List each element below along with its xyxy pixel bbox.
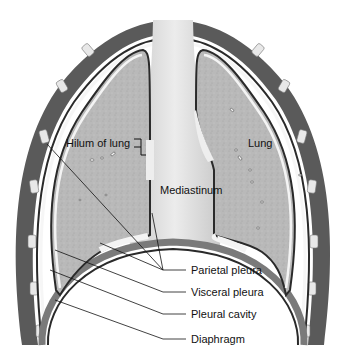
pleural-cavity-label: Pleural cavity bbox=[191, 308, 256, 320]
visceral-pleura-label: Visceral pleura bbox=[191, 286, 264, 298]
mediastinum-label: Mediastinum bbox=[160, 184, 222, 196]
diaphragm-label: Diaphragm bbox=[191, 333, 245, 345]
left-hilum bbox=[146, 140, 154, 180]
lung-label: Lung bbox=[248, 137, 272, 149]
thorax-illustration bbox=[0, 0, 346, 360]
thorax-cross-section-diagram: Hilum of lung Lung Mediastinum Parietal … bbox=[0, 0, 346, 360]
parietal-pleura-label: Parietal pleura bbox=[191, 264, 262, 276]
hilum-label: Hilum of lung bbox=[66, 137, 130, 149]
